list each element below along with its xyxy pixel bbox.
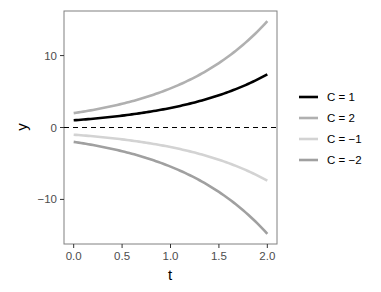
- x-tick-label: 2.0: [259, 250, 275, 262]
- x-axis-title: t: [168, 266, 173, 283]
- legend-item: C = 2: [299, 112, 355, 124]
- legend-label: C = 2: [327, 112, 355, 124]
- x-tick-label: 0.0: [66, 250, 82, 262]
- legend-label: C = −1: [327, 133, 362, 145]
- legend-item: C = −1: [299, 133, 362, 145]
- legend-item: C = 1: [299, 91, 355, 103]
- x-axis: 0.00.51.01.52.0: [66, 244, 276, 262]
- y-axis-title: y: [13, 123, 30, 131]
- chart: 0.00.51.01.52.0 −10010 t y C = 1C = 2C =…: [0, 0, 381, 292]
- plot-panel: [64, 11, 277, 244]
- legend: C = 1C = 2C = −1C = −2: [299, 91, 362, 166]
- x-tick-label: 1.5: [211, 250, 227, 262]
- legend-label: C = 1: [327, 91, 355, 103]
- legend-label: C = −2: [327, 154, 362, 166]
- x-tick-label: 1.0: [163, 250, 179, 262]
- y-axis: −10010: [37, 50, 64, 206]
- legend-item: C = −2: [299, 154, 362, 166]
- y-tick-label: 10: [44, 50, 57, 62]
- x-tick-label: 0.5: [114, 250, 130, 262]
- y-tick-label: 0: [51, 122, 57, 134]
- y-tick-label: −10: [37, 193, 57, 205]
